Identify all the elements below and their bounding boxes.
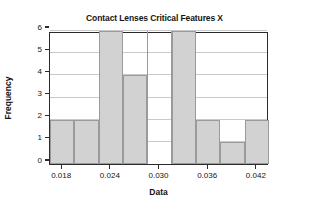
x-axis-tick: 0.042: [246, 165, 266, 180]
y-axis-tick: 5: [38, 44, 49, 54]
x-axis-tick-mark: [255, 165, 256, 169]
x-axis-tick-label: 0.036: [197, 171, 217, 180]
x-axis-tick: 0.036: [197, 165, 217, 180]
x-axis-tick-group: 0.0180.0240.0300.0360.042: [49, 165, 268, 187]
y-axis-tick-label: 2: [38, 111, 45, 120]
y-axis-tick: 2: [38, 111, 49, 121]
y-axis-tick-label: 1: [38, 133, 45, 142]
y-axis-tick-mark: [45, 26, 49, 27]
histogram-bar: [99, 31, 123, 164]
x-axis-tick-label: 0.042: [246, 171, 266, 180]
y-axis-tick-label: 6: [38, 23, 45, 32]
y-axis-tick: 1: [38, 133, 49, 143]
y-axis-tick-label: 5: [38, 45, 45, 54]
histogram-bar: [196, 120, 220, 164]
y-axis-tick-label: 3: [38, 89, 45, 98]
histogram-bar: [245, 120, 269, 164]
bar-group: [50, 33, 267, 164]
y-axis-tick-label: 4: [38, 67, 45, 76]
x-axis-tick-mark: [207, 165, 208, 169]
y-axis-tick-group: 0123456: [0, 32, 49, 165]
x-axis-tick-label: 0.018: [51, 171, 71, 180]
histogram-bar: [220, 142, 244, 164]
histogram-bar: [74, 120, 98, 164]
histogram-bar: [172, 31, 196, 164]
plot-area: [49, 32, 268, 165]
x-axis-tick-mark: [61, 165, 62, 169]
x-axis-label: Data: [49, 187, 268, 197]
y-axis-tick: 0: [38, 155, 49, 165]
y-axis-tick-label: 0: [38, 156, 45, 165]
x-axis-tick: 0.024: [100, 165, 120, 180]
x-axis-tick-label: 0.030: [148, 171, 168, 180]
y-axis-tick: 3: [38, 89, 49, 99]
histogram-bar: [147, 31, 171, 164]
x-axis-tick-mark: [109, 165, 110, 169]
histogram-bar: [50, 120, 74, 164]
y-axis-tick: 4: [38, 66, 49, 76]
x-axis-tick-label: 0.024: [100, 171, 120, 180]
histogram-figure: Contact Lenses Critical Features X Frequ…: [0, 0, 309, 209]
y-axis-tick: 6: [38, 22, 49, 32]
x-axis-tick-mark: [158, 165, 159, 169]
histogram-bar: [123, 75, 147, 164]
x-axis-tick: 0.030: [148, 165, 168, 180]
x-axis-tick: 0.018: [51, 165, 71, 180]
